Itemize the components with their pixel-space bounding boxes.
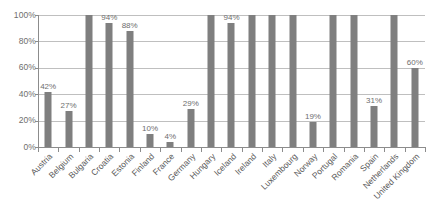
bar-group[interactable]: 10% [140, 15, 160, 147]
bar[interactable] [228, 23, 235, 147]
bar[interactable] [350, 15, 357, 147]
bar-chart: 0%20%40%60%80%100% 42%27%94%88%10%4%29%9… [0, 0, 435, 221]
bar[interactable] [391, 15, 398, 147]
bar[interactable] [371, 106, 378, 147]
bar-group[interactable]: 19% [303, 15, 323, 147]
bar-value-label: 94% [101, 13, 117, 22]
bar-group[interactable] [323, 15, 343, 147]
bars-layer: 42%27%94%88%10%4%29%94%19%31%60% [38, 15, 425, 147]
bar[interactable] [330, 15, 337, 147]
bar[interactable] [248, 15, 255, 147]
bar-group[interactable] [201, 15, 221, 147]
bar[interactable] [106, 23, 113, 147]
bar-group[interactable]: 94% [99, 15, 119, 147]
bar-value-label: 10% [142, 124, 158, 133]
x-axis-labels: AustriaBelgiumBulgariaCroatiaEstoniaFinl… [38, 152, 425, 221]
bar[interactable] [289, 15, 296, 147]
y-tick-label: 40% [2, 90, 36, 99]
bar-group[interactable]: 42% [38, 15, 58, 147]
bar-group[interactable] [79, 15, 99, 147]
bar-value-label: 31% [366, 96, 382, 105]
bar[interactable] [45, 92, 52, 147]
y-tick-label: 20% [2, 116, 36, 125]
x-tick-mark [425, 148, 426, 152]
bar-group[interactable]: 31% [364, 15, 384, 147]
bar-group[interactable] [344, 15, 364, 147]
bar-value-label: 94% [223, 13, 239, 22]
bar-value-label: 29% [183, 99, 199, 108]
bar-group[interactable] [262, 15, 282, 147]
y-tick-label: 60% [2, 63, 36, 72]
bar[interactable] [147, 134, 154, 147]
bar-value-label: 88% [122, 21, 138, 30]
bar-group[interactable]: 4% [160, 15, 180, 147]
y-tick-label: 80% [2, 37, 36, 46]
bar-group[interactable]: 27% [58, 15, 78, 147]
bar-value-label: 27% [61, 101, 77, 110]
bar-value-label: 19% [305, 112, 321, 121]
bar-group[interactable] [242, 15, 262, 147]
bar-group[interactable] [384, 15, 404, 147]
y-tick-label: 0% [2, 143, 36, 152]
bar[interactable] [167, 142, 174, 147]
bar[interactable] [208, 15, 215, 147]
bar-group[interactable]: 60% [405, 15, 425, 147]
bar[interactable] [126, 31, 133, 147]
bar[interactable] [309, 122, 316, 147]
bar[interactable] [411, 68, 418, 147]
bar-value-label: 42% [40, 82, 56, 91]
bar-group[interactable]: 88% [119, 15, 139, 147]
bar[interactable] [187, 109, 194, 147]
bar-value-label: 60% [407, 58, 423, 67]
bar[interactable] [65, 111, 72, 147]
bar-group[interactable] [282, 15, 302, 147]
bar[interactable] [269, 15, 276, 147]
bar-group[interactable]: 29% [181, 15, 201, 147]
y-tick-label: 100% [2, 11, 36, 20]
bar-group[interactable]: 94% [221, 15, 241, 147]
bar-value-label: 4% [165, 132, 177, 141]
bar[interactable] [85, 15, 92, 147]
